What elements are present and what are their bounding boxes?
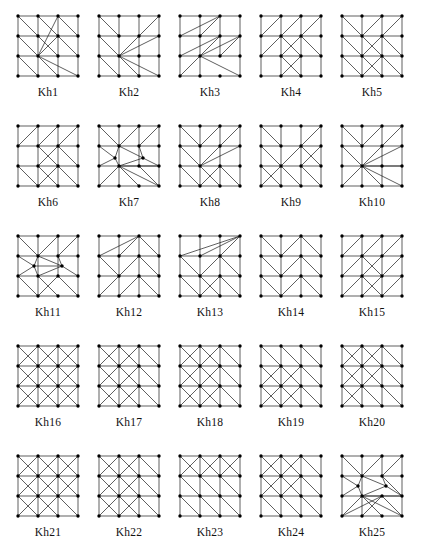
graph-vertex [319, 34, 322, 37]
graph-vertex [117, 164, 120, 167]
graph-vertex [259, 14, 262, 17]
graph-panel: Kh19 [257, 342, 338, 452]
graph-edge [362, 386, 382, 406]
graph-vertex [117, 254, 120, 257]
graph-vertex [16, 364, 19, 367]
graph-vertex [400, 164, 403, 167]
graph-vertex [238, 184, 241, 187]
graph-vertex [76, 54, 79, 57]
graph-vertex [198, 254, 201, 257]
graph-vertex [279, 404, 282, 407]
graph-vertex [360, 474, 363, 477]
graph-edge [115, 146, 119, 158]
graph-vertex [279, 234, 282, 237]
graph-vertex [218, 14, 221, 17]
graph-vertex [259, 144, 262, 147]
graph-vertex [157, 514, 160, 517]
graph-edge [220, 346, 240, 366]
graph-edge [58, 166, 78, 186]
graph-vertex [319, 474, 322, 477]
graph-vertex [380, 164, 383, 167]
graph-vertex [380, 234, 383, 237]
graph-vertex [319, 144, 322, 147]
graph-edge [139, 366, 159, 386]
graph-vertex [319, 384, 322, 387]
graph-edge [180, 166, 200, 186]
graph-label: Kh23 [176, 526, 244, 539]
graph-vertex [97, 474, 100, 477]
graph-edge [18, 256, 34, 266]
graph-vertex [137, 344, 140, 347]
graph-drawing [257, 232, 329, 304]
graph-vertex [380, 344, 383, 347]
graph-edge [261, 256, 281, 276]
graph-vertex [97, 514, 100, 517]
graph-label: Kh7 [95, 196, 163, 209]
graph-vertex [360, 364, 363, 367]
graph-edge [281, 166, 301, 186]
graph-edge [180, 56, 200, 76]
graph-vertex [279, 364, 282, 367]
graph-vertex [117, 14, 120, 17]
graph-drawing [176, 342, 248, 414]
graph-edge [38, 126, 58, 146]
graph-vertex [16, 274, 19, 277]
graph-edge [362, 166, 382, 186]
graph-edge [139, 346, 159, 366]
graph-drawing [176, 12, 248, 84]
graph-vertex [137, 14, 140, 17]
graph-panel: Kh12 [95, 232, 176, 342]
graph-panel: Kh20 [338, 342, 419, 452]
graph-edge [200, 256, 220, 276]
graph-vertex [238, 404, 241, 407]
graph-panel: Kh2 [95, 12, 176, 122]
graph-vertex [178, 344, 181, 347]
graph-edge [342, 476, 358, 486]
graph-edge [200, 126, 220, 146]
graph-vertex [356, 484, 359, 487]
graph-vertex [279, 274, 282, 277]
graph-vertex [259, 474, 262, 477]
graph-vertex [218, 254, 221, 257]
graph-vertex [340, 404, 343, 407]
graph-vertex [238, 14, 241, 17]
graph-vertex [137, 494, 140, 497]
graph-panel-grid: Kh1Kh2Kh3Kh4Kh5Kh6Kh7Kh8Kh9Kh10Kh11Kh12K… [0, 0, 437, 560]
graph-vertex [16, 144, 19, 147]
graph-vertex [400, 184, 403, 187]
graph-vertex [400, 234, 403, 237]
graph-vertex [178, 234, 181, 237]
graph-vertex [340, 34, 343, 37]
graph-vertex [360, 74, 363, 77]
graph-vertex [76, 234, 79, 237]
graph-vertex [340, 364, 343, 367]
graph-vertex [117, 384, 120, 387]
graph-vertex [56, 184, 59, 187]
graph-vertex [259, 164, 262, 167]
graph-vertex [299, 124, 302, 127]
graph-vertex [360, 294, 363, 297]
graph-vertex [360, 494, 363, 497]
graph-vertex [36, 364, 39, 367]
graph-vertex [259, 294, 262, 297]
graph-vertex [36, 124, 39, 127]
graph-vertex [400, 494, 403, 497]
graph-edge [99, 146, 115, 158]
graph-vertex [16, 54, 19, 57]
graph-label: Kh22 [95, 526, 163, 539]
graph-vertex [198, 274, 201, 277]
graph-label: Kh21 [14, 526, 82, 539]
graph-vertex [76, 184, 79, 187]
graph-vertex [238, 344, 241, 347]
graph-panel: Kh15 [338, 232, 419, 342]
graph-vertex [36, 404, 39, 407]
graph-label: Kh10 [338, 196, 406, 209]
graph-vertex [400, 474, 403, 477]
graph-vertex [384, 484, 387, 487]
graph-edge [220, 476, 240, 496]
graph-edge [200, 496, 220, 516]
graph-drawing [95, 12, 167, 84]
graph-vertex [380, 514, 383, 517]
graph-edge [342, 56, 362, 76]
graph-panel: Kh18 [176, 342, 257, 452]
